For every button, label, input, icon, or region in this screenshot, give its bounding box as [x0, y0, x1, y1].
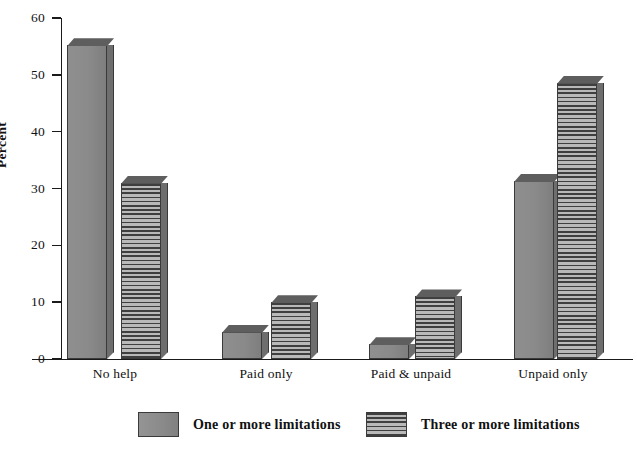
- bar-top-face: [271, 295, 318, 303]
- bar-side-face: [161, 183, 168, 359]
- bar-chart: Percent 0102030405060 No helpPaid onlyPa…: [0, 0, 637, 465]
- legend-label: One or more limitations: [193, 417, 341, 433]
- y-axis-tick-label: 50: [0, 68, 45, 82]
- bar-side-face: [262, 332, 269, 359]
- y-axis-tick-mark: [52, 188, 61, 189]
- y-axis-tick-label: 60: [0, 11, 45, 25]
- plot-area: [62, 18, 632, 359]
- bar-top-face: [557, 76, 604, 84]
- bar-side-face: [107, 45, 114, 359]
- bar-top-face: [514, 174, 561, 182]
- bar-front-face: [557, 83, 597, 359]
- solid-gray-swatch: [138, 412, 179, 437]
- bar-one-or-more-limitations: [514, 174, 561, 359]
- bar-top-face: [121, 176, 168, 184]
- bar-three-or-more-limitations: [271, 295, 318, 359]
- legend-label: Three or more limitations: [421, 417, 580, 433]
- y-axis-tick-mark: [52, 131, 61, 132]
- legend-item: One or more limitations: [138, 412, 341, 437]
- bar-top-face: [369, 337, 416, 345]
- y-axis-tick-label: 0: [0, 352, 45, 366]
- x-axis-category-label: Paid only: [186, 366, 346, 381]
- y-axis-tick-label: 40: [0, 125, 45, 139]
- bar-one-or-more-limitations: [369, 337, 416, 359]
- x-axis-category-label: Paid & unpaid: [331, 366, 491, 381]
- y-axis-tick-mark: [52, 74, 61, 75]
- bar-side-face: [455, 296, 462, 359]
- bar-top-face: [415, 289, 462, 297]
- bar-side-face: [311, 302, 318, 359]
- bar-side-face: [597, 83, 604, 359]
- bar-three-or-more-limitations: [415, 289, 462, 359]
- bar-front-face: [514, 181, 554, 359]
- y-axis-tick-label: 20: [0, 238, 45, 252]
- bar-one-or-more-limitations: [67, 38, 114, 359]
- y-axis-tick-mark: [52, 245, 61, 246]
- bar-top-face: [222, 325, 269, 333]
- y-axis-tick-label: 30: [0, 182, 45, 196]
- y-axis-tick-mark: [52, 358, 61, 359]
- bar-front-face: [415, 296, 455, 359]
- bar-front-face: [67, 45, 107, 359]
- x-axis-category-label: No help: [35, 366, 195, 381]
- y-axis-tick-mark: [52, 301, 61, 302]
- bar-top-face: [67, 38, 114, 46]
- bar-front-face: [271, 302, 311, 359]
- legend-item: Three or more limitations: [366, 412, 580, 437]
- bar-front-face: [369, 344, 409, 359]
- striped-gray-swatch: [366, 412, 407, 437]
- y-axis-tick-label: 10: [0, 295, 45, 309]
- bar-front-face: [121, 183, 161, 359]
- x-axis-category-label: Unpaid only: [473, 366, 633, 381]
- chart-legend: One or more limitationsThree or more lim…: [0, 412, 637, 446]
- bar-one-or-more-limitations: [222, 325, 269, 359]
- y-axis-tick-mark: [52, 17, 61, 18]
- bar-three-or-more-limitations: [121, 176, 168, 359]
- bar-three-or-more-limitations: [557, 76, 604, 359]
- bar-front-face: [222, 332, 262, 359]
